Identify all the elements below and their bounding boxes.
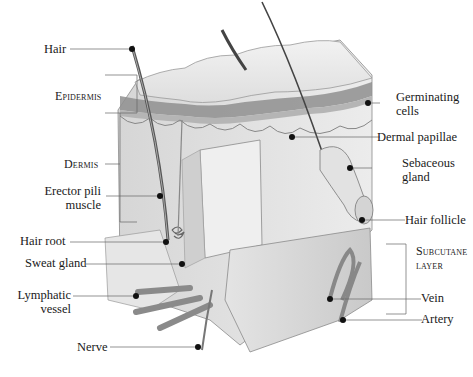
label-sebaceous-gland: Sebaceous gland xyxy=(402,156,455,184)
label-erector-pili-muscle: Erector pili muscle xyxy=(44,184,101,212)
label-line: muscle xyxy=(44,198,101,212)
label-line: gland xyxy=(402,170,455,184)
label-sweat-gland: Sweat gland xyxy=(25,256,86,270)
label-hair: Hair xyxy=(44,42,66,56)
label-line: vessel xyxy=(18,302,71,316)
label-line: layer xyxy=(416,258,467,272)
label-dermal-papillae: Dermal papillae xyxy=(377,130,457,144)
label-hair-follicle: Hair follicle xyxy=(405,213,466,227)
label-line: cells xyxy=(396,104,459,118)
label-vein: Vein xyxy=(421,291,444,305)
label-epidermis: Epidermis xyxy=(55,89,101,103)
label-line: Subcutane xyxy=(416,244,467,258)
label-germinating-cells: Germinating cells xyxy=(396,90,459,118)
label-line: Sebaceous xyxy=(402,156,455,170)
label-nerve: Nerve xyxy=(77,340,108,354)
label-subcutaneous-layer: Subcutane layer xyxy=(416,244,467,272)
label-line: Germinating xyxy=(396,90,459,104)
label-line: Lymphatic xyxy=(18,288,71,302)
label-hair-root: Hair root xyxy=(20,234,65,248)
label-line: Erector pili xyxy=(44,184,101,198)
label-dermis: Dermis xyxy=(64,157,98,171)
label-artery: Artery xyxy=(421,312,454,326)
label-lymphatic-vessel: Lymphatic vessel xyxy=(18,288,71,316)
